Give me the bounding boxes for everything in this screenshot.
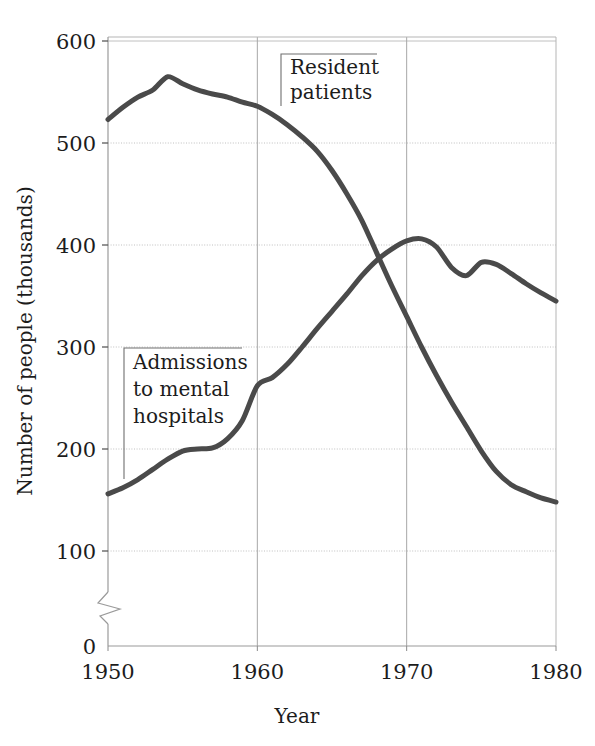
annotation-label-resident-patients-line2: patients [290, 80, 372, 104]
ytick-label-400: 400 [56, 234, 96, 258]
annotation-label-admissions-line3: hospitals [133, 404, 224, 428]
xtick-label-1960: 1960 [231, 660, 284, 684]
chart-container: 0100200300400500600 1950196019701980 Yea… [0, 0, 595, 746]
annotation-resident-patients: Resident patients [281, 54, 379, 106]
ytick-label-200: 200 [56, 438, 96, 462]
x-axis-title: Year [274, 704, 320, 728]
y-axis-title: Number of people (thousands) [13, 186, 37, 495]
line-chart: 0100200300400500600 1950196019701980 Yea… [0, 0, 595, 746]
xtick-label-1950: 1950 [81, 660, 134, 684]
annotation-label-admissions-line1: Admissions [132, 350, 248, 374]
ytick-label-0: 0 [83, 635, 96, 659]
ytick-label-300: 300 [56, 336, 96, 360]
ytick-label-500: 500 [56, 132, 96, 156]
annotation-label-admissions-line2: to mental [133, 377, 229, 401]
ytick-label-600: 600 [56, 30, 96, 54]
ytick-label-100: 100 [56, 540, 96, 564]
annotation-label-resident-patients-line1: Resident [290, 55, 379, 79]
xtick-label-1980: 1980 [529, 660, 582, 684]
xtick-label-1970: 1970 [380, 660, 433, 684]
